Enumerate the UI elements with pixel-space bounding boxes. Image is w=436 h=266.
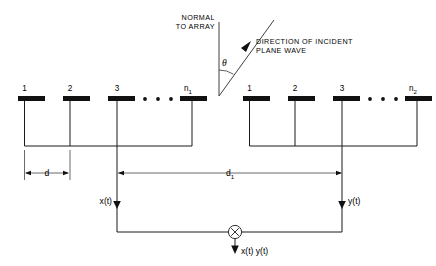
array2-element-n (405, 96, 432, 101)
array1-ellipsis-dot (169, 97, 173, 101)
incident-wave-arrowhead (241, 41, 251, 52)
direction-of-incident-label-line1: DIRECTION OF INCIDENT (256, 37, 353, 46)
array-separation-subscript: 1 (231, 173, 235, 180)
theta-angle-arc (219, 70, 234, 74)
array1-element-3 (108, 96, 135, 101)
direction-of-incident-label-line2: PLANE WAVE (256, 46, 306, 55)
array1-ellipsis-dot (156, 97, 160, 101)
array1-element-n-subscript: 1 (189, 88, 193, 95)
d-arrow-right (63, 171, 69, 175)
array2-element-2-label: 2 (293, 84, 298, 93)
x-signal-label: x(t) (100, 196, 113, 206)
array-separation-label: d1 (226, 168, 235, 180)
y-signal-arrowhead (338, 201, 346, 209)
x-signal-arrowhead (113, 201, 121, 209)
multiplier-output-arrowhead (231, 246, 239, 255)
d1-arrow-right (336, 171, 342, 175)
diagram-canvas: NORMAL TO ARRAY DIRECTION OF INCIDENT PL… (0, 0, 436, 266)
normal-to-array-label-line2: TO ARRAY (176, 22, 215, 31)
array2-ellipsis-dot (394, 97, 398, 101)
array1-element-1 (18, 96, 45, 101)
array-correlator-diagram: NORMAL TO ARRAY DIRECTION OF INCIDENT PL… (0, 0, 436, 266)
array1-element-n-label: n1 (184, 84, 193, 95)
array2-ellipsis-dot (381, 97, 385, 101)
array2-element-n-label: n2 (409, 84, 418, 95)
array1-element-2-label: 2 (68, 84, 73, 93)
array1-ellipsis-dot (143, 97, 147, 101)
array2-ellipsis-dot (368, 97, 372, 101)
element-spacing-label: d (45, 168, 50, 178)
array2-element-n-subscript: 2 (414, 88, 418, 95)
array1-element-3-label: 3 (115, 84, 120, 93)
array2-element-1 (243, 96, 270, 101)
array2-element-2 (288, 96, 315, 101)
multiplier-output-label: x(t) y(t) (241, 246, 268, 256)
normal-to-array-label-line1: NORMAL (182, 13, 215, 22)
y-signal-label: y(t) (348, 196, 361, 206)
array2-element-1-label: 1 (247, 84, 252, 93)
theta-angle-label: θ (222, 57, 227, 68)
d1-arrow-left (118, 171, 124, 175)
array1-element-1-label: 1 (22, 84, 27, 93)
d-arrow-left (25, 171, 31, 175)
array2-element-3 (333, 96, 360, 101)
array1-element-n (180, 96, 207, 101)
array2-element-3-label: 3 (340, 84, 345, 93)
array1-element-2 (63, 96, 90, 101)
